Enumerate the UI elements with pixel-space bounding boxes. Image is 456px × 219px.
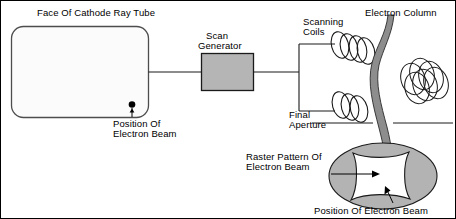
label-final-aperture-line2: Aperture bbox=[289, 119, 326, 130]
label-raster-pattern-line2: Electron Beam bbox=[246, 161, 310, 172]
raster-pattern-shape bbox=[351, 152, 410, 200]
scan-generator-box bbox=[202, 54, 254, 91]
label-crt-beam-position-line2: Electron Beam bbox=[113, 128, 177, 139]
label-electron-column: Electron Column bbox=[365, 7, 437, 18]
diagram-canvas bbox=[1, 1, 456, 219]
crt-electron-column-diagram: Face Of Cathode Ray Tube Position Of Ele… bbox=[0, 0, 456, 219]
upper-scanning-coil-set bbox=[328, 30, 377, 66]
lower-scanning-coil-set bbox=[329, 90, 370, 124]
label-scanning-coils-line2: Coils bbox=[303, 26, 325, 37]
label-crt-face: Face Of Cathode Ray Tube bbox=[37, 7, 155, 18]
crt-screen-shape bbox=[12, 27, 149, 118]
scanning-coils-bracket bbox=[299, 44, 335, 111]
coil-winding-cluster bbox=[397, 55, 452, 106]
label-raster-beam-position: Position Of Electron Beam bbox=[314, 205, 428, 216]
crt-beam-spot-icon bbox=[129, 101, 136, 108]
label-scan-generator-line2: Generator bbox=[198, 40, 242, 51]
